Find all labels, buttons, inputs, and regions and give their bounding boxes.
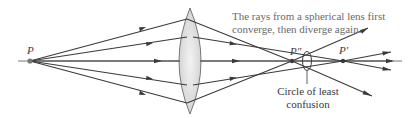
clc-line-2: confusion: [272, 98, 344, 111]
label-P: P: [27, 45, 34, 56]
spherical-aberration-diagram: P P″ P′ The rays from a spherical lens f…: [0, 0, 411, 118]
circle-of-least-confusion-label: Circle of least confusion: [272, 85, 344, 111]
marginal-focus-point: [290, 59, 294, 63]
caption-line-1: The rays from a spherical lens first: [232, 10, 385, 23]
source-point-P: [27, 58, 32, 63]
clc-line-1: Circle of least: [272, 85, 344, 98]
converging-lens: [179, 8, 201, 114]
caption: The rays from a spherical lens first con…: [232, 10, 385, 36]
caption-line-2: converge, then diverge again.: [232, 23, 385, 36]
incident-rays: [30, 19, 187, 103]
paraxial-focus-point: [341, 59, 345, 63]
label-P-prime: P′: [339, 45, 348, 56]
label-P-double-prime: P″: [290, 46, 301, 57]
